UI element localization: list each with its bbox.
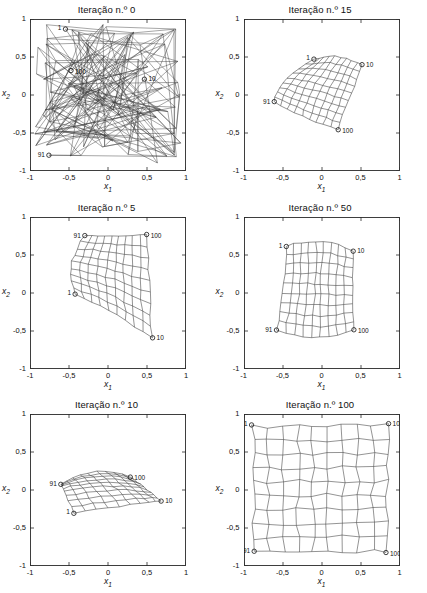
panel-title: Iteração n.º 50 <box>214 202 427 213</box>
plot-canvas: 11091100 <box>244 414 400 566</box>
som-lattice <box>251 424 389 553</box>
plot-area: 11091100 <box>244 414 400 566</box>
corner-neuron-label: 1 <box>244 420 248 427</box>
y-axis-title: x2 <box>2 286 10 298</box>
y-tick-label: 0,5 <box>4 250 26 259</box>
axis-ticks <box>244 414 400 566</box>
corner-neuron-label: 10 <box>366 61 374 68</box>
plot-canvas: 11091100 <box>30 414 186 566</box>
x-axis-title: x1 <box>30 576 186 588</box>
plot-canvas: 11091100 <box>30 19 186 171</box>
x-axis-title-sub: 1 <box>108 581 112 588</box>
som-training-figure: Iteração n.º 010,50-0,5-1-1-0,500,51x1x2… <box>0 0 427 593</box>
som-lattice <box>35 25 181 163</box>
corner-neuron-label: 100 <box>357 326 368 333</box>
corner-neuron-label: 91 <box>38 151 46 158</box>
axes-frame <box>31 217 186 368</box>
y-tick-label: 1 <box>218 14 240 23</box>
x-axis-title: x1 <box>30 181 186 193</box>
y-tick-label: -0,5 <box>4 326 26 335</box>
corner-neuron-marker <box>336 128 340 132</box>
corner-neuron-label: 100 <box>75 68 86 75</box>
panel-title: Iteração n.º 5 <box>0 202 213 213</box>
plot-area: 11091100 <box>30 217 186 369</box>
corner-neuron-label: 1 <box>58 24 62 31</box>
x-axis-title: x1 <box>244 181 400 193</box>
plot-area: 11091100 <box>30 19 186 171</box>
plot-panel-iteration-50: Iteração n.º 5010,50-0,5-1-1-0,500,51x1x… <box>214 198 427 395</box>
y-axis-title: x2 <box>2 88 10 100</box>
axes-frame <box>31 415 186 566</box>
plot-panel-iteration-5: Iteração n.º 510,50-0,5-1-1-0,500,51x1x2… <box>0 198 213 395</box>
plot-panel-iteration-15: Iteração n.º 1510,50-0,5-1-1-0,500,51x1x… <box>214 0 427 197</box>
plot-area: 11091100 <box>30 414 186 566</box>
axes-frame <box>244 20 399 171</box>
corner-neuron-label: 10 <box>148 75 156 82</box>
y-tick-label: 1 <box>4 14 26 23</box>
x-axis-title-sub: 1 <box>322 581 326 588</box>
y-tick-label: 0,5 <box>218 52 240 61</box>
corner-neuron-label: 91 <box>244 548 251 555</box>
x-axis-title: x1 <box>244 379 400 391</box>
som-lattice <box>276 241 353 337</box>
axis-ticks <box>244 217 400 369</box>
panel-title: Iteração n.º 100 <box>214 399 427 410</box>
y-tick-label: -0,5 <box>218 128 240 137</box>
som-lattice <box>274 56 362 130</box>
y-axis-title-sub: 2 <box>6 290 10 297</box>
panel-title: Iteração n.º 0 <box>0 4 213 15</box>
y-tick-label: 1 <box>4 409 26 418</box>
corner-neuron-label: 10 <box>357 247 365 254</box>
y-tick-label: -0,5 <box>218 523 240 532</box>
corner-neuron-label: 91 <box>50 481 58 488</box>
corner-neuron-label: 91 <box>74 231 82 238</box>
y-axis-title-sub: 2 <box>220 290 224 297</box>
axis-ticks <box>244 19 400 171</box>
axis-ticks <box>30 217 186 369</box>
corner-neuron-label: 100 <box>342 127 353 134</box>
corner-neuron-label: 100 <box>151 231 162 238</box>
plot-panel-iteration-10: Iteração n.º 1010,50-0,5-1-1-0,500,51x1x… <box>0 395 213 592</box>
panel-title: Iteração n.º 10 <box>0 399 213 410</box>
corner-neuron-label: 100 <box>134 474 145 481</box>
y-axis-title-sub: 2 <box>6 93 10 100</box>
plot-canvas: 11091100 <box>244 19 400 171</box>
y-tick-label: 0,5 <box>4 447 26 456</box>
y-axis-title: x2 <box>216 88 224 100</box>
corner-neuron-label: 100 <box>389 550 399 557</box>
y-tick-label: -0,5 <box>4 523 26 532</box>
y-tick-label: -0,5 <box>218 326 240 335</box>
corner-neuron-label: 1 <box>66 509 70 516</box>
plot-canvas: 11091100 <box>30 217 186 369</box>
y-axis-title-sub: 2 <box>220 488 224 495</box>
plot-area: 11091100 <box>244 19 400 171</box>
corner-neuron-label: 10 <box>392 420 399 427</box>
corner-neuron-label: 10 <box>157 333 165 340</box>
y-tick-label: 0,5 <box>218 447 240 456</box>
plot-area: 11091100 <box>244 217 400 369</box>
corner-neuron-label: 91 <box>265 326 273 333</box>
plot-panel-iteration-100: Iteração n.º 10010,50-0,5-1-1-0,500,51x1… <box>214 395 427 592</box>
corner-neuron-label: 91 <box>263 98 271 105</box>
axis-ticks <box>30 414 186 566</box>
panel-title: Iteração n.º 15 <box>214 4 427 15</box>
y-tick-label: 1 <box>218 409 240 418</box>
som-lattice <box>61 471 161 513</box>
y-tick-label: 0,5 <box>218 250 240 259</box>
y-axis-title: x2 <box>216 286 224 298</box>
corner-neuron-label: 1 <box>278 241 282 248</box>
y-axis-title-sub: 2 <box>6 488 10 495</box>
plot-canvas: 11091100 <box>244 217 400 369</box>
corner-neuron-marker <box>150 335 154 339</box>
som-lattice <box>71 234 153 337</box>
y-tick-label: 1 <box>218 212 240 221</box>
x-axis-title-sub: 1 <box>322 186 326 193</box>
plot-panel-iteration-0: Iteração n.º 010,50-0,5-1-1-0,500,51x1x2… <box>0 0 213 197</box>
corner-neuron-label: 10 <box>165 497 173 504</box>
y-axis-title: x2 <box>2 483 10 495</box>
y-tick-label: 1 <box>4 212 26 221</box>
y-axis-title: x2 <box>216 483 224 495</box>
corner-neuron-marker <box>359 62 363 66</box>
y-axis-title-sub: 2 <box>220 93 224 100</box>
corner-neuron-label: 1 <box>67 289 71 296</box>
